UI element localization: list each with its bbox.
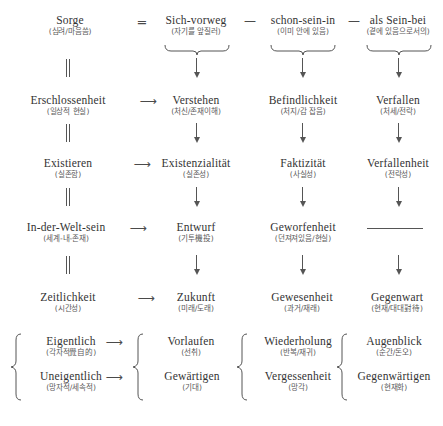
identity-bar-1 xyxy=(65,59,70,77)
identity-bar-3 xyxy=(65,188,70,206)
cell-gewaertigen: Gewärtigen (기대) xyxy=(144,370,240,392)
gloss-vergessenheit: (망각) xyxy=(246,384,350,392)
cell-in-der-welt-sein: In-der-Welt-sein (세계-내-존재) xyxy=(0,221,132,243)
cell-faktizitaet: Faktizität (사실성) xyxy=(250,157,356,179)
term-entwurf: Entwurf xyxy=(144,221,248,233)
term-sorge: Sorge xyxy=(0,14,140,26)
gloss-zukunft: (미래/도래) xyxy=(144,305,248,313)
cell-erschlossenheit: Erschlossenheit (일상적 현실) xyxy=(0,94,136,116)
identity-bar-4 xyxy=(65,256,70,274)
cell-verfallenheit: Verfallenheit (전락성) xyxy=(352,157,443,179)
cell-vergessenheit: Vergessenheit (망각) xyxy=(246,370,350,392)
cell-gegenwaertigen: Gegenwärtigen (현재화) xyxy=(344,370,443,392)
cell-zukunft: Zukunft (미래/도래) xyxy=(144,291,248,313)
underbrace-schon-sein-in xyxy=(270,44,336,56)
term-augenblick: Augenblick xyxy=(346,335,442,347)
term-in-der-welt-sein: In-der-Welt-sein xyxy=(0,221,132,233)
term-gegenwaertigen: Gegenwärtigen xyxy=(344,370,443,382)
term-existieren: Existieren xyxy=(0,157,136,169)
gloss-eigentlich: (각자적覺自的) xyxy=(18,349,124,357)
gloss-befindlichkeit: (처지/감 잡음) xyxy=(250,108,356,116)
term-erschlossenheit: Erschlossenheit xyxy=(0,94,136,106)
gloss-gewaertigen: (기대) xyxy=(144,384,240,392)
cell-wiederholung: Wiederholung (반복/재귀) xyxy=(246,335,350,357)
cell-zeitlichkeit: Zeitlichkeit (시간성) xyxy=(0,291,136,313)
gloss-zeitlichkeit: (시간성) xyxy=(0,305,136,313)
term-wiederholung: Wiederholung xyxy=(246,335,350,347)
cell-gewesenheit: Gewesenheit (과거/재래) xyxy=(248,291,356,313)
cell-schon-sein-in: schon-sein-in (이미 안에 있음) xyxy=(250,14,356,36)
gloss-gewesenheit: (과거/재래) xyxy=(248,305,356,313)
gloss-geworfenheit: (던져져있음/현실) xyxy=(248,235,358,243)
cell-als-sein-bei: als Sein-bei (곁에 있음으로서의) xyxy=(352,14,443,36)
term-vergessenheit: Vergessenheit xyxy=(246,370,350,382)
cell-existenzialitaet: Existenzialität (실존성) xyxy=(144,157,248,179)
connector-arrow-row6: ⟶ xyxy=(100,336,128,348)
gloss-existenzialitaet: (실존성) xyxy=(144,171,248,179)
gloss-als-sein-bei: (곁에 있음으로서의) xyxy=(352,28,443,36)
cell-sorge: Sorge (심려/마음씀) xyxy=(0,14,140,36)
connector-arrow-row7: ⟶ xyxy=(100,371,128,383)
down-arrow-col4-row5 xyxy=(394,255,403,275)
cell-befindlichkeit: Befindlichkeit (처지/감 잡음) xyxy=(250,94,356,116)
gloss-in-der-welt-sein: (세계-내-존재) xyxy=(0,235,132,243)
gloss-gegenwaertigen: (현재화) xyxy=(344,384,443,392)
term-verfallen: Verfallen xyxy=(352,94,443,106)
gloss-existieren: (실존함) xyxy=(0,171,136,179)
down-arrow-col3-row3 xyxy=(298,123,307,143)
gloss-uneigentlich: (망자적/세속적) xyxy=(14,384,128,392)
cell-vorlaufen: Vorlaufen (선취) xyxy=(144,335,238,357)
term-als-sein-bei: als Sein-bei xyxy=(352,14,443,26)
cell-existieren: Existieren (실존함) xyxy=(0,157,136,179)
diagram-canvas: Sorge (심려/마음씀) ═ Sich-vorweg (자기를 앞질러) —… xyxy=(0,0,443,426)
term-faktizitaet: Faktizität xyxy=(250,157,356,169)
gloss-verfallen: (처세/전락) xyxy=(352,108,443,116)
identity-bar-2 xyxy=(65,124,70,142)
gloss-gegenwart: (현재/대대對待) xyxy=(350,305,443,313)
gloss-sorge: (심려/마음씀) xyxy=(0,28,140,36)
term-befindlichkeit: Befindlichkeit xyxy=(250,94,356,106)
cell-augenblick: Augenblick (순간/돈오) xyxy=(346,335,442,357)
term-zukunft: Zukunft xyxy=(144,291,248,303)
gloss-erschlossenheit: (일상적 현실) xyxy=(0,108,136,116)
underbrace-sich-vorweg xyxy=(164,44,230,56)
gloss-augenblick: (순간/돈오) xyxy=(346,349,442,357)
term-existenzialitaet: Existenzialität xyxy=(144,157,248,169)
term-gewesenheit: Gewesenheit xyxy=(248,291,356,303)
down-arrow-col4-row4 xyxy=(394,187,403,207)
cell-gegenwart: Gegenwart (현재/대대對待) xyxy=(350,291,443,313)
gloss-sich-vorweg: (자기를 앞질러) xyxy=(140,28,252,36)
term-schon-sein-in: schon-sein-in xyxy=(250,14,356,26)
down-arrow-col2-row2 xyxy=(192,58,201,78)
empty-slot-rule-col4 xyxy=(367,228,423,229)
gloss-wiederholung: (반복/재귀) xyxy=(246,349,350,357)
gloss-schon-sein-in: (이미 안에 있음) xyxy=(250,28,356,36)
term-geworfenheit: Geworfenheit xyxy=(248,221,358,233)
cell-geworfenheit: Geworfenheit (던져져있음/현실) xyxy=(248,221,358,243)
down-arrow-col4-row3 xyxy=(394,123,403,143)
cell-verfallen: Verfallen (처세/전락) xyxy=(352,94,443,116)
term-gegenwart: Gegenwart xyxy=(350,291,443,303)
down-arrow-col3-row4 xyxy=(298,187,307,207)
underbrace-als-sein-bei xyxy=(366,44,432,56)
cell-entwurf: Entwurf (기투機投) xyxy=(144,221,248,243)
down-arrow-col4-row2 xyxy=(394,58,403,78)
gloss-vorlaufen: (선취) xyxy=(144,349,238,357)
term-vorlaufen: Vorlaufen xyxy=(144,335,238,347)
down-arrow-col3-row2 xyxy=(298,58,307,78)
cell-verstehen: Verstehen (처신/존재이해) xyxy=(144,94,248,116)
term-zeitlichkeit: Zeitlichkeit xyxy=(0,291,136,303)
down-arrow-col3-row5 xyxy=(298,255,307,275)
down-arrow-col2-row5 xyxy=(192,255,201,275)
gloss-verfallenheit: (전락성) xyxy=(352,171,443,179)
gloss-faktizitaet: (사실성) xyxy=(250,171,356,179)
term-sich-vorweg: Sich-vorweg xyxy=(140,14,252,26)
term-gewaertigen: Gewärtigen xyxy=(144,370,240,382)
gloss-verstehen: (처신/존재이해) xyxy=(144,108,248,116)
term-verfallenheit: Verfallenheit xyxy=(352,157,443,169)
down-arrow-col2-row4 xyxy=(192,187,201,207)
gloss-entwurf: (기투機投) xyxy=(144,235,248,243)
term-verstehen: Verstehen xyxy=(144,94,248,106)
cell-sich-vorweg: Sich-vorweg (자기를 앞질러) xyxy=(140,14,252,36)
down-arrow-col2-row3 xyxy=(192,123,201,143)
